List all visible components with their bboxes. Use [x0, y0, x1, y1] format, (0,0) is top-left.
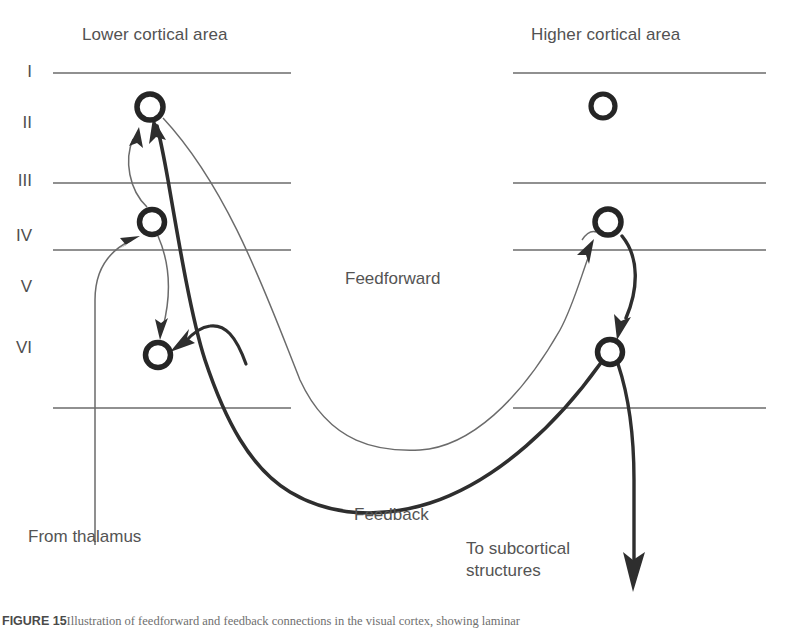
lower-layer6-neuron: [146, 343, 171, 368]
feedback-to-layer6-pathway: [170, 326, 246, 364]
higher-4-to-6-arrowhead: [614, 314, 631, 340]
higher-layer2-neuron: [591, 94, 615, 118]
from-thalamus-label: From thalamus: [28, 527, 141, 547]
higher-layer4-to-layer6-pathway: [614, 236, 635, 340]
thalamic-input-pathway: [95, 236, 140, 545]
higher-layer4-neuron: [595, 209, 621, 235]
figure-caption-text: Illustration of feedforward and feedback…: [67, 614, 520, 628]
lower-4-to-2-line: [129, 139, 147, 207]
lower-layer4-to-layer6-pathway: [155, 236, 168, 340]
layer-label-VI: VI: [2, 338, 32, 358]
layer-label-V: V: [2, 277, 32, 297]
feedback-pathway: [149, 118, 600, 513]
lower-cortical-area-title: Lower cortical area: [82, 25, 228, 45]
thalamic-input-line: [95, 240, 132, 545]
higher-4-to-6-line: [622, 236, 635, 318]
lower-layer4-to-layer2-pathway: [129, 127, 147, 207]
feedforward-arrowhead: [577, 239, 594, 264]
layer-label-III: III: [2, 171, 32, 191]
subcortical-output-line: [618, 364, 634, 560]
lower-4-to-6-arrowhead: [155, 318, 168, 340]
to-subcortical-label-line1: To subcortical: [466, 539, 570, 559]
layer-label-II: II: [2, 113, 32, 133]
lower-4-to-2-arrowhead: [129, 127, 143, 148]
higher-4-upward-line: [582, 231, 596, 240]
feedback-curve: [157, 126, 600, 513]
thalamic-input-arrowhead: [119, 236, 140, 249]
figure-caption: FIGURE 15Illustration of feedforward and…: [2, 614, 785, 631]
feedback-layer6-arrowhead: [170, 329, 195, 352]
feedback-label: Feedback: [354, 505, 429, 525]
feedforward-label: Feedforward: [345, 269, 440, 289]
lower-layer4-neuron: [140, 210, 165, 235]
figure-container: Lower cortical area Higher cortical area…: [0, 0, 785, 631]
to-subcortical-label-line2: structures: [466, 561, 541, 581]
lower-layer2-neuron: [137, 94, 163, 120]
subcortical-output-pathway: [618, 364, 645, 592]
higher-cortical-area-title: Higher cortical area: [531, 25, 680, 45]
feedback-layer6-branch: [185, 326, 246, 364]
layer-label-IV: IV: [2, 226, 32, 246]
higher-layer4-upward-stub: [582, 231, 596, 240]
higher-area-laminar-lines: [513, 73, 766, 408]
figure-caption-number: FIGURE 15: [2, 614, 67, 628]
higher-layer6-neuron: [598, 340, 623, 365]
layer-label-I: I: [2, 62, 32, 82]
